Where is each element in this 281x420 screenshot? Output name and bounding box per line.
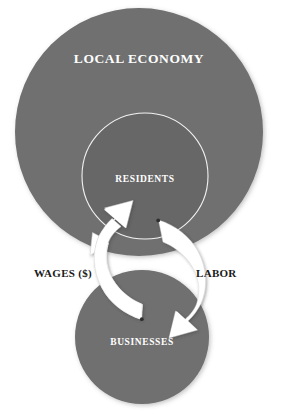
labor-flow-label: LABOR bbox=[196, 267, 237, 279]
labor-arrow-tail-tip bbox=[156, 219, 160, 223]
wages-flow-label: WAGES ($) bbox=[34, 267, 92, 280]
diagram-canvas: LOCAL ECONOMY RESIDENTS BUSINESSES WAGES… bbox=[0, 0, 281, 420]
local-economy-label: LOCAL ECONOMY bbox=[74, 51, 204, 66]
wages-arrow-tail-tip bbox=[140, 317, 144, 321]
residents-label: RESIDENTS bbox=[115, 174, 174, 184]
economy-flow-diagram: LOCAL ECONOMY RESIDENTS BUSINESSES WAGES… bbox=[0, 0, 281, 420]
businesses-label: BUSINESSES bbox=[110, 337, 174, 347]
